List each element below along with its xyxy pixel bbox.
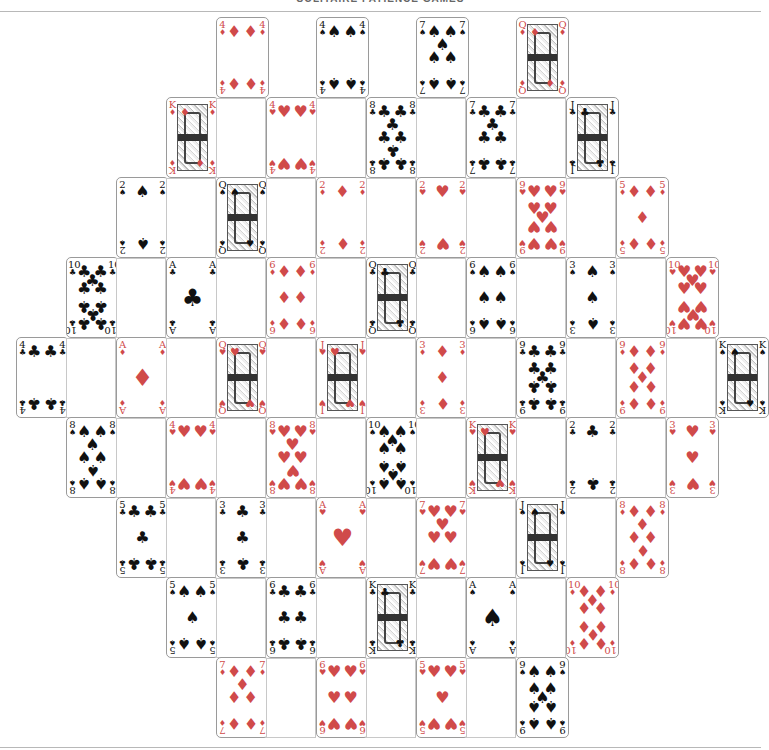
card-3-of-diamonds[interactable]: 3♦3♦3♦3♦♦♦♦	[416, 337, 469, 418]
empty-tableau-slot[interactable]	[266, 178, 316, 258]
empty-tableau-slot[interactable]	[216, 578, 266, 658]
card-4-of-hearts[interactable]: 4♥4♥4♥4♥♥♥♥♥	[266, 97, 319, 178]
card-pips: ♠♠♠♠♠♠♠	[426, 22, 459, 93]
card-9-of-spades[interactable]: 9♠9♠9♠9♠♠♠♠♠♠♠♠♠♠	[516, 657, 569, 738]
card-j-of-clubs[interactable]: J♣J♣J♣J♣♣♣	[566, 97, 619, 178]
card-a-of-clubs[interactable]: A♣A♣A♣A♣♣	[166, 257, 219, 338]
card-3-of-spades[interactable]: 3♠3♠3♠3♠♠♠♠	[566, 257, 619, 338]
empty-tableau-slot[interactable]	[516, 258, 566, 338]
empty-tableau-slot[interactable]	[316, 98, 366, 178]
empty-tableau-slot[interactable]	[416, 258, 466, 338]
empty-tableau-slot[interactable]	[516, 98, 566, 178]
card-8-of-spades[interactable]: 8♠8♠8♠8♠♠♠♠♠♠♠♠♠	[66, 417, 119, 498]
card-k-of-clubs[interactable]: K♣K♣K♣K♣♣♣	[366, 577, 419, 658]
empty-tableau-slot[interactable]	[416, 418, 466, 498]
empty-tableau-slot[interactable]	[566, 498, 616, 578]
card-7-of-clubs[interactable]: 7♣7♣7♣7♣♣♣♣♣♣♣♣	[466, 97, 519, 178]
empty-tableau-slot[interactable]	[166, 178, 216, 258]
card-5-of-hearts[interactable]: 5♥5♥5♥5♥♥♥♥♥♥	[416, 657, 469, 738]
empty-tableau-slot[interactable]	[416, 98, 466, 178]
card-8-of-diamonds[interactable]: 8♦8♦8♦8♦♦♦♦♦♦♦♦♦	[616, 497, 669, 578]
card-10-of-hearts[interactable]: 10♥10♥10♥10♥♥♥♥♥♥♥♥♥♥♥	[666, 257, 719, 338]
card-7-of-hearts[interactable]: 7♥7♥7♥7♥♥♥♥♥♥♥♥	[416, 497, 469, 578]
card-7-of-spades[interactable]: 7♠7♠7♠7♠♠♠♠♠♠♠♠	[416, 17, 469, 98]
diamonds-icon: ♦	[258, 78, 267, 86]
empty-tableau-slot[interactable]	[616, 258, 666, 338]
card-5-of-clubs[interactable]: 5♣5♣5♣5♣♣♣♣♣♣	[116, 497, 169, 578]
card-6-of-diamonds[interactable]: 6♦6♦6♦6♦♦♦♦♦♦♦	[266, 257, 319, 338]
card-3-of-hearts[interactable]: 3♥3♥3♥3♥♥♥♥	[666, 417, 719, 498]
empty-tableau-slot[interactable]	[66, 338, 116, 418]
card-a-of-hearts[interactable]: A♥A♥A♥A♥♥	[316, 497, 369, 578]
card-10-of-spades[interactable]: 10♠10♠10♠10♠♠♠♠♠♠♠♠♠♠♠	[366, 417, 419, 498]
card-q-of-clubs[interactable]: Q♣Q♣Q♣Q♣♣♣	[366, 257, 419, 338]
card-k-of-spades[interactable]: K♠K♠K♠K♠♠♠	[716, 337, 769, 418]
empty-tableau-slot[interactable]	[366, 338, 416, 418]
card-4-of-spades[interactable]: 4♠4♠4♠4♠♠♠♠♠	[316, 17, 369, 98]
card-9-of-hearts[interactable]: 9♥9♥9♥9♥♥♥♥♥♥♥♥♥♥	[516, 177, 569, 258]
card-q-of-diamonds[interactable]: Q♦Q♦Q♦Q♦♦♦	[516, 17, 569, 98]
empty-tableau-slot[interactable]	[266, 658, 316, 738]
spades-icon: ♠	[518, 509, 527, 517]
card-2-of-diamonds[interactable]: 2♦2♦2♦2♦♦♦	[316, 177, 369, 258]
card-4-of-hearts[interactable]: 4♥4♥4♥4♥♥♥♥♥	[166, 417, 219, 498]
card-6-of-spades[interactable]: 6♠6♠6♠6♠♠♠♠♠♠♠	[466, 257, 519, 338]
card-8-of-hearts[interactable]: 8♥8♥8♥8♥♥♥♥♥♥♥♥♥	[266, 417, 319, 498]
card-a-of-spades[interactable]: A♠A♠A♠A♠♠	[466, 577, 519, 658]
empty-tableau-slot[interactable]	[116, 418, 166, 498]
card-7-of-diamonds[interactable]: 7♦7♦7♦7♦♦♦♦♦♦♦♦	[216, 657, 269, 738]
card-a-of-diamonds[interactable]: A♦A♦A♦A♦♦	[116, 337, 169, 418]
card-2-of-spades[interactable]: 2♠2♠2♠2♠♠♠	[116, 177, 169, 258]
card-index-corner: K♠	[758, 398, 767, 415]
card-j-of-spades[interactable]: J♠J♠J♠J♠♠♠	[516, 497, 569, 578]
card-2-of-clubs[interactable]: 2♣2♣2♣2♣♣♣	[566, 417, 619, 498]
empty-tableau-slot[interactable]	[466, 178, 516, 258]
card-6-of-clubs[interactable]: 6♣6♣6♣6♣♣♣♣♣♣♣	[266, 577, 319, 658]
card-q-of-hearts[interactable]: Q♥Q♥Q♥Q♥♥♥	[216, 337, 269, 418]
empty-tableau-slot[interactable]	[216, 418, 266, 498]
empty-tableau-slot[interactable]	[666, 338, 716, 418]
card-q-of-spades[interactable]: Q♠Q♠Q♠Q♠♠♠	[216, 177, 269, 258]
empty-tableau-slot[interactable]	[266, 338, 316, 418]
empty-tableau-slot[interactable]	[616, 418, 666, 498]
empty-tableau-slot[interactable]	[566, 338, 616, 418]
card-10-of-diamonds[interactable]: 10♦10♦10♦10♦♦♦♦♦♦♦♦♦♦♦	[566, 577, 619, 658]
card-9-of-diamonds[interactable]: 9♦9♦9♦9♦♦♦♦♦♦♦♦♦♦	[616, 337, 669, 418]
card-5-of-spades[interactable]: 5♠5♠5♠5♠♠♠♠♠♠	[166, 577, 219, 658]
empty-tableau-slot[interactable]	[366, 498, 416, 578]
diamonds-icon: ♦	[643, 184, 659, 200]
empty-tableau-slot[interactable]	[516, 578, 566, 658]
card-index-corner: Q♠	[218, 238, 227, 255]
card-j-of-hearts[interactable]: J♥J♥J♥J♥♥♥	[316, 337, 369, 418]
card-6-of-hearts[interactable]: 6♥6♥6♥6♥♥♥♥♥♥♥	[316, 657, 369, 738]
empty-tableau-slot[interactable]	[466, 498, 516, 578]
empty-tableau-slot[interactable]	[216, 98, 266, 178]
empty-tableau-slot[interactable]	[466, 658, 516, 738]
empty-tableau-slot[interactable]	[416, 578, 466, 658]
spades-icon: ♠	[526, 698, 542, 714]
rank-label: K	[168, 166, 177, 175]
card-2-of-hearts[interactable]: 2♥2♥2♥2♥♥♥	[416, 177, 469, 258]
empty-tableau-slot[interactable]	[566, 178, 616, 258]
empty-tableau-slot[interactable]	[366, 178, 416, 258]
empty-tableau-slot[interactable]	[216, 258, 266, 338]
empty-tableau-slot[interactable]	[116, 258, 166, 338]
empty-tableau-slot[interactable]	[366, 658, 416, 738]
card-5-of-diamonds[interactable]: 5♦5♦5♦5♦♦♦♦♦♦	[616, 177, 669, 258]
empty-tableau-slot[interactable]	[516, 418, 566, 498]
card-k-of-diamonds[interactable]: K♦K♦K♦K♦♦♦	[166, 97, 219, 178]
card-9-of-clubs[interactable]: 9♣9♣9♣9♣♣♣♣♣♣♣♣♣♣	[516, 337, 569, 418]
card-k-of-hearts[interactable]: K♥K♥K♥K♥♥♥	[466, 417, 519, 498]
empty-tableau-slot[interactable]	[166, 498, 216, 578]
empty-tableau-slot[interactable]	[316, 258, 366, 338]
card-3-of-clubs[interactable]: 3♣3♣3♣3♣♣♣♣	[216, 497, 269, 578]
empty-tableau-slot[interactable]	[166, 338, 216, 418]
card-10-of-clubs[interactable]: 10♣10♣10♣10♣♣♣♣♣♣♣♣♣♣♣	[66, 257, 119, 338]
empty-tableau-slot[interactable]	[316, 578, 366, 658]
empty-tableau-slot[interactable]	[266, 498, 316, 578]
card-8-of-clubs[interactable]: 8♣8♣8♣8♣♣♣♣♣♣♣♣♣	[366, 97, 419, 178]
empty-tableau-slot[interactable]	[466, 338, 516, 418]
card-4-of-clubs[interactable]: 4♣4♣4♣4♣♣♣♣♣	[16, 337, 69, 418]
card-4-of-diamonds[interactable]: 4♦4♦4♦4♦♦♦♦♦	[216, 17, 269, 98]
empty-tableau-slot[interactable]	[316, 418, 366, 498]
